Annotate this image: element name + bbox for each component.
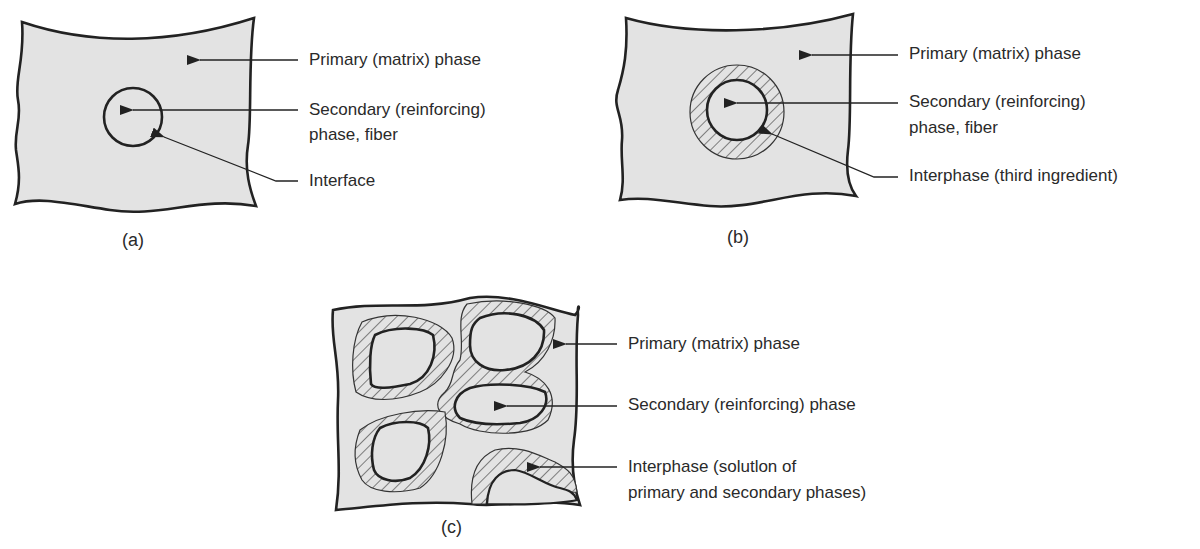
label-b-interphase: Interphase (third ingredient) bbox=[909, 166, 1118, 186]
label-b-secondary-line1: Secondary (reinforcing) bbox=[909, 92, 1086, 112]
label-c-interphase-line1: Interphase (solutlon of bbox=[628, 457, 796, 477]
caption-a: (a) bbox=[122, 230, 144, 250]
label-c-interphase-line2: primary and secondary phases) bbox=[628, 483, 866, 503]
particle-c-3 bbox=[455, 385, 546, 425]
panel-c bbox=[332, 297, 617, 510]
label-a-secondary-line1: Secondary (reinforcing) bbox=[309, 100, 486, 120]
label-c-secondary: Secondary (reinforcing) phase bbox=[628, 395, 856, 415]
caption-c: (c) bbox=[441, 517, 462, 537]
composite-phases-diagram bbox=[0, 0, 1200, 549]
label-a-secondary-line2: phase, fiber bbox=[309, 125, 398, 145]
caption-b: (b) bbox=[727, 227, 749, 247]
label-a-primary: Primary (matrix) phase bbox=[309, 50, 481, 70]
label-b-secondary-line2: phase, fiber bbox=[909, 118, 998, 138]
label-b-primary: Primary (matrix) phase bbox=[909, 44, 1081, 64]
label-c-primary: Primary (matrix) phase bbox=[628, 334, 800, 354]
panel-b bbox=[616, 14, 898, 206]
label-a-interface: Interface bbox=[309, 171, 375, 191]
fiber-b bbox=[707, 80, 767, 140]
panel-a bbox=[15, 18, 298, 212]
fiber-a bbox=[104, 88, 162, 146]
